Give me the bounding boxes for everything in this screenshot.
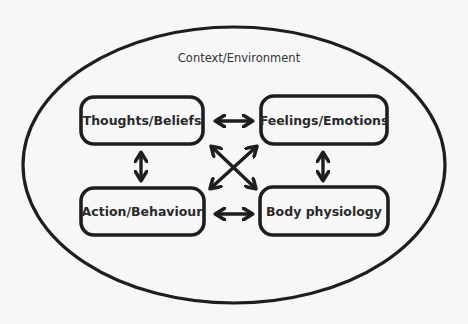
node-label: Feelings/Emotions: [260, 113, 389, 128]
node-feelings-emotions: Feelings/Emotions: [260, 96, 389, 144]
node-thoughts-beliefs: Thoughts/Beliefs: [81, 97, 203, 144]
node-action-behaviour: Action/Behaviour: [81, 188, 204, 235]
node-label: Thoughts/Beliefs: [83, 113, 202, 128]
node-label: Action/Behaviour: [82, 204, 204, 219]
context-label: Context/Environment: [178, 51, 301, 65]
node-body-physiology: Body physiology: [260, 187, 388, 235]
node-label: Body physiology: [266, 204, 382, 219]
cbt-diagram: Context/Environment Thoughts/Beliefs Fee…: [0, 0, 468, 324]
